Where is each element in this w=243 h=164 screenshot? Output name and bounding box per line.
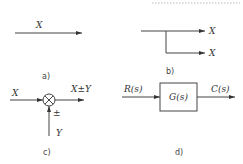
signal-label: X bbox=[35, 20, 43, 30]
panel-d-caption: d) bbox=[175, 148, 183, 157]
panel-a-caption: a) bbox=[42, 72, 50, 81]
panel-a-signal-line: X a) bbox=[15, 20, 82, 81]
panel-b-caption: b) bbox=[166, 67, 174, 76]
branch-output-label-1: X bbox=[208, 26, 216, 36]
panel-c-summing-junction: X X±Y ± Y c) bbox=[10, 84, 92, 157]
panel-d-transfer-block: R(s) G(s) C(s) d) bbox=[122, 83, 235, 157]
sum-output-label: X±Y bbox=[70, 84, 92, 94]
sum-sign-label: ± bbox=[53, 108, 61, 118]
sum-second-input-label: Y bbox=[56, 128, 63, 138]
block-diagram-canvas: X a) X X b) X X±Y ± Y c) R(s) G(s) C(s) … bbox=[0, 0, 243, 164]
block-input-label: R(s) bbox=[123, 84, 143, 94]
sum-input-label: X bbox=[11, 88, 19, 98]
branch-output-label-2: X bbox=[208, 48, 216, 58]
panel-b-branch-point: X X b) bbox=[141, 26, 216, 76]
panel-c-caption: c) bbox=[43, 148, 51, 157]
block-output-label: C(s) bbox=[211, 84, 230, 94]
block-function-label: G(s) bbox=[169, 92, 188, 102]
